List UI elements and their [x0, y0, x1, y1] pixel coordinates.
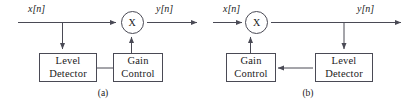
- output-signal-label-b: y[n]: [357, 3, 374, 14]
- input-signal-label-b: x[n]: [223, 3, 240, 14]
- output-signal-label-a: y[n]: [156, 3, 173, 14]
- panel-caption-b: (b): [205, 88, 411, 98]
- block-level-detector-a-line2: Detector: [49, 68, 87, 80]
- block-level-detector-b: Level Detector: [315, 53, 373, 82]
- block-level-detector-a-line1: Level: [56, 55, 81, 67]
- block-level-detector-b-line1: Level: [332, 55, 357, 67]
- block-level-detector-a: Level Detector: [39, 53, 97, 82]
- input-signal-label-a: x[n]: [28, 3, 45, 14]
- block-gain-control-b: Gain Control: [226, 53, 276, 82]
- block-gain-control-b-line2: Control: [234, 68, 268, 80]
- block-level-detector-b-line2: Detector: [325, 68, 363, 80]
- multiplier-node-b: X: [245, 11, 268, 34]
- panel-b-feedback-agc: x[n] y[n] X Gain Control Level Detector …: [205, 0, 411, 106]
- block-gain-control-a-line2: Control: [121, 68, 155, 80]
- block-gain-control-a-line1: Gain: [127, 55, 148, 67]
- panel-caption-a: (a): [0, 88, 206, 98]
- panel-a-feedforward-agc: x[n] y[n] X Level Detector Gain Control …: [0, 0, 206, 106]
- block-gain-control-a: Gain Control: [113, 53, 163, 82]
- multiplier-node-a: X: [121, 11, 144, 34]
- block-gain-control-b-line1: Gain: [240, 55, 261, 67]
- figure-agc-block-diagrams: x[n] y[n] X Level Detector Gain Control …: [0, 0, 411, 106]
